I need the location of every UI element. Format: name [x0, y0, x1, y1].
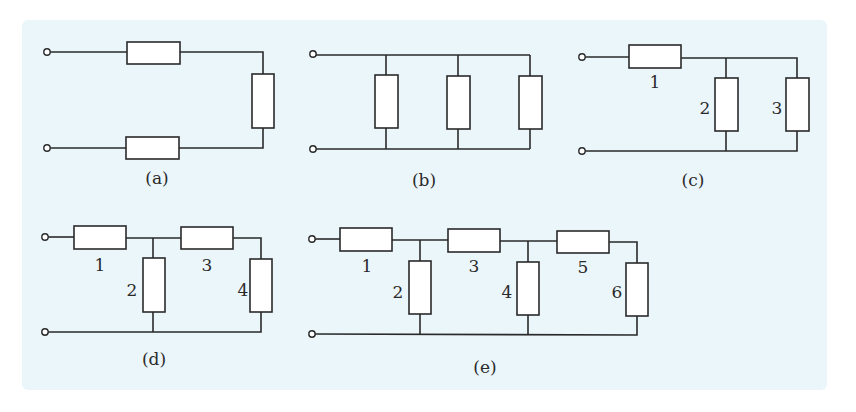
caption-d: (d) [142, 349, 166, 369]
resistor-e-6 [626, 263, 648, 316]
resistor-d-4 [250, 259, 272, 312]
caption-e: (e) [473, 357, 496, 377]
resistor-e-5 [557, 231, 609, 253]
resistor-c-2 [715, 78, 738, 131]
terminal-icon [42, 329, 48, 335]
resistor-b-2 [447, 76, 470, 129]
terminal-icon [44, 49, 50, 55]
resistor-label: 2 [700, 98, 711, 118]
terminal-icon [44, 145, 50, 151]
resistor-label: 1 [362, 256, 373, 276]
resistor-c-1 [629, 45, 681, 68]
resistor-c-3 [786, 78, 809, 131]
resistor-e-4 [517, 262, 539, 315]
terminal-icon [309, 331, 315, 337]
resistor-label: 3 [772, 98, 783, 118]
resistor-label: 3 [202, 255, 213, 275]
resistor-e-3 [448, 229, 500, 252]
terminal-icon [579, 54, 585, 60]
caption-c: (c) [682, 170, 705, 190]
terminal-icon [310, 51, 316, 57]
resistor-a-bottom [126, 137, 179, 159]
circuit-a: (a) [44, 42, 274, 188]
terminal-icon [579, 148, 585, 154]
resistor-label: 3 [469, 256, 480, 276]
resistor-label: 4 [502, 282, 513, 302]
terminal-icon [310, 146, 316, 152]
resistor-label: 5 [578, 257, 589, 277]
resistor-e-2 [409, 261, 431, 314]
circuit-b: (b) [310, 51, 542, 190]
circuit-c: 1 2 3 (c) [579, 45, 809, 190]
terminal-icon [42, 234, 48, 240]
caption-b: (b) [412, 170, 436, 190]
resistor-d-1 [74, 226, 126, 249]
circuit-e: 1 2 3 4 5 6 (e) [309, 228, 648, 377]
resistor-e-1 [340, 228, 392, 251]
resistor-label: 6 [612, 282, 623, 302]
resistor-label: 1 [95, 255, 106, 275]
resistor-d-3 [181, 227, 233, 249]
resistor-d-2 [143, 258, 165, 312]
terminal-icon [309, 236, 315, 242]
caption-a: (a) [145, 168, 168, 188]
resistor-label: 4 [238, 280, 249, 300]
resistor-label: 2 [127, 280, 138, 300]
circuit-d: 1 2 3 4 (d) [42, 226, 272, 369]
resistor-label: 1 [650, 72, 661, 92]
resistor-b-1 [375, 75, 398, 128]
resistor-label: 2 [393, 282, 404, 302]
circuit-figure: (a) (b) 1 2 3 (c) [0, 0, 856, 412]
resistor-b-3 [519, 76, 542, 129]
resistor-a-right [252, 74, 274, 128]
resistor-a-top [127, 42, 180, 64]
